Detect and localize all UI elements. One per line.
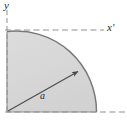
figure-container: y x' a bbox=[0, 0, 127, 127]
quarter-circle-figure-svg bbox=[0, 0, 127, 127]
x-prime-axis-label: x' bbox=[107, 22, 114, 33]
y-axis-label: y bbox=[4, 0, 9, 11]
shaded-quarter-circle-region bbox=[7, 31, 97, 112]
radius-label: a bbox=[40, 91, 45, 101]
